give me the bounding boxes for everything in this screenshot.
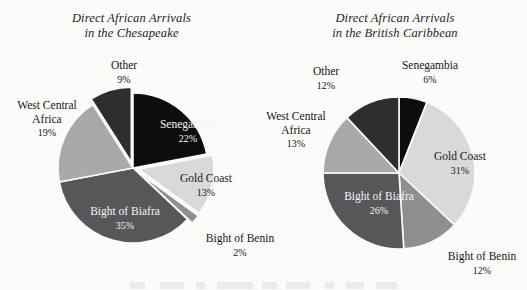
page-canvas: Direct African Arrivals in the Chesapeak… <box>0 0 527 290</box>
callout-west-central-africa-caribbean: West Central Africa 13% <box>253 110 339 151</box>
callout-label-line-2: Africa <box>4 113 90 127</box>
callout-label: Senegambia <box>391 59 469 73</box>
callout-percent: 12% <box>440 264 524 278</box>
callout-label-line-1: West Central <box>253 110 339 124</box>
pie-slice-senegambia-chesapeake[interactable] <box>133 93 207 168</box>
page-bottom-cropped-text <box>118 282 418 289</box>
callout-percent: 12% <box>298 79 354 93</box>
callout-bight-of-benin-chesapeake: Bight of Benin 2% <box>198 232 282 259</box>
callout-percent: 9% <box>96 73 152 87</box>
callout-label: Bight of Benin <box>198 232 282 246</box>
callout-other-chesapeake: Other 9% <box>96 59 152 86</box>
callout-label: Bight of Benin <box>440 250 524 264</box>
callout-percent: 6% <box>391 73 469 87</box>
callout-label: Other <box>96 59 152 73</box>
callout-label: Other <box>298 65 354 79</box>
callout-percent: 13% <box>253 137 339 151</box>
callout-bight-of-benin-caribbean: Bight of Benin 12% <box>440 250 524 277</box>
callout-other-caribbean: Other 12% <box>298 65 354 92</box>
callout-senegambia-caribbean: Senegambia 6% <box>391 59 469 86</box>
callout-percent: 19% <box>4 126 90 140</box>
callout-percent: 2% <box>198 246 282 260</box>
callout-label-line-1: West Central <box>4 99 90 113</box>
callout-west-central-africa-chesapeake: West Central Africa 19% <box>4 99 90 140</box>
callout-label-line-2: Africa <box>253 124 339 138</box>
pie-slice-bight-of-biafra-caribbean[interactable] <box>323 173 404 249</box>
